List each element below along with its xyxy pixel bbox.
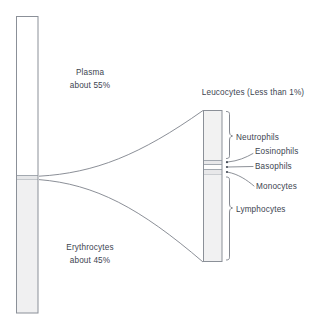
eosinophil-band [204, 161, 223, 165]
lymphocyte-band [204, 175, 223, 262]
plasma-percent-label: about 55% [70, 81, 111, 90]
basophil-band [204, 165, 223, 170]
buffy-coat-layer [17, 176, 39, 181]
eosinophils-label: Eosinophils [255, 147, 299, 156]
monocytes-label: Monocytes [256, 182, 297, 191]
erythrocyte-percent-label: about 45% [70, 256, 111, 265]
monocytes-leader-line [228, 172, 254, 186]
connector-curve-lower [39, 180, 203, 262]
plasma-layer [17, 17, 39, 176]
plasma-label: Plasma [76, 68, 104, 77]
lymphocytes-bracket [227, 177, 233, 260]
eosinophils-leader-line [228, 154, 253, 163]
leucocytes-header-label: Leucocytes (Less than 1%) [202, 88, 305, 97]
lymphocytes-label: Lymphocytes [236, 205, 286, 214]
connector-curve-upper [39, 111, 203, 177]
monocyte-band [204, 170, 223, 175]
erythrocyte-layer [17, 180, 39, 313]
blood-composition-diagram: Plasma about 55% Erythrocytes about 45% … [0, 0, 318, 331]
neutrophil-band [204, 111, 223, 161]
leucocyte-detail-tube [204, 111, 223, 262]
neutrophils-label: Neutrophils [236, 133, 279, 142]
blood-sample-tube [17, 17, 39, 314]
neutrophils-bracket [227, 112, 233, 159]
erythrocyte-label: Erythrocytes [66, 243, 113, 252]
basophils-leader-line [228, 167, 253, 168]
basophils-label: Basophils [255, 162, 292, 171]
